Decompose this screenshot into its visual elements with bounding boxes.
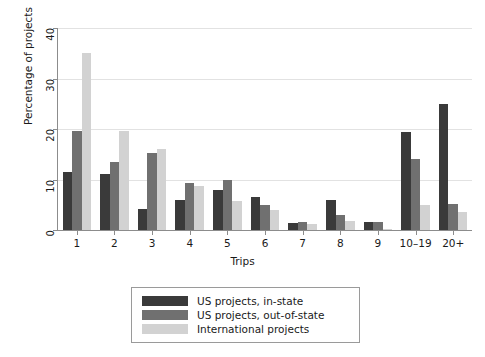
x-tick-mark	[114, 231, 115, 235]
bar	[72, 131, 82, 230]
bar	[194, 186, 204, 230]
bar	[448, 204, 458, 230]
x-tick-label: 6	[246, 238, 284, 249]
y-tick-label: 0	[46, 230, 56, 236]
x-tick-mark	[77, 231, 78, 235]
x-tick-mark	[227, 231, 228, 235]
legend-label: US projects, out-of-state	[197, 310, 324, 321]
bar-group	[96, 28, 134, 230]
bar	[307, 224, 317, 230]
bar	[63, 172, 73, 230]
bar	[119, 131, 129, 230]
x-tick: 5	[209, 231, 247, 253]
bar	[213, 190, 223, 230]
x-tick-label: 3	[133, 238, 171, 249]
x-tick-mark	[453, 231, 454, 235]
x-tick: 1	[58, 231, 96, 253]
bar	[223, 180, 233, 231]
bar	[439, 104, 449, 230]
x-tick-label: 8	[321, 238, 359, 249]
y-tick-label: 10	[46, 180, 56, 193]
plot-area: 010203040	[57, 28, 472, 230]
legend-item: US projects, in-state	[142, 294, 349, 308]
bar-group	[434, 28, 472, 230]
bar	[288, 223, 298, 230]
y-tick-label: 40	[46, 28, 56, 41]
x-tick: 7	[284, 231, 322, 253]
legend-swatch	[142, 296, 188, 306]
bar	[383, 229, 393, 230]
bar	[251, 197, 261, 230]
x-tick: 20+	[434, 231, 472, 253]
bar-group	[246, 28, 284, 230]
bar	[458, 212, 468, 230]
bar	[110, 162, 120, 230]
legend-swatch	[142, 324, 188, 334]
legend-item: US projects, out-of-state	[142, 308, 349, 322]
bar	[411, 159, 421, 230]
bar-group	[133, 28, 171, 230]
x-axis-ticks: 12345678910–1920+	[58, 231, 472, 253]
bar-group	[284, 28, 322, 230]
x-tick: 4	[171, 231, 209, 253]
bar-group	[58, 28, 96, 230]
legend-label: International projects	[197, 324, 309, 335]
x-tick: 10–19	[397, 231, 435, 253]
x-tick: 3	[133, 231, 171, 253]
bar-chart-figure: Percentage of projects 010203040 1234567…	[0, 0, 485, 357]
bar	[364, 222, 374, 230]
legend-label: US projects, in-state	[197, 296, 303, 307]
x-tick-mark	[265, 231, 266, 235]
x-tick: 9	[359, 231, 397, 253]
x-tick-mark	[416, 231, 417, 235]
bar-group	[321, 28, 359, 230]
bar	[100, 174, 110, 230]
x-tick: 6	[246, 231, 284, 253]
y-axis-title: Percentage of projects	[22, 0, 34, 156]
legend-item: International projects	[142, 322, 349, 336]
legend-swatch	[142, 310, 188, 320]
x-tick-label: 1	[58, 238, 96, 249]
x-tick-label: 7	[284, 238, 322, 249]
x-tick: 8	[321, 231, 359, 253]
bar	[147, 153, 157, 230]
bar-groups	[58, 28, 472, 230]
bar	[260, 205, 270, 230]
x-tick-mark	[340, 231, 341, 235]
bar-group	[209, 28, 247, 230]
bar-group	[171, 28, 209, 230]
chart-legend: US projects, in-stateUS projects, out-of…	[131, 287, 360, 343]
x-tick-mark	[303, 231, 304, 235]
bar	[232, 201, 242, 230]
x-tick-label: 9	[359, 238, 397, 249]
bar	[298, 222, 308, 230]
x-tick-label: 2	[96, 238, 134, 249]
y-tick-label: 30	[46, 79, 56, 92]
bar	[270, 210, 280, 230]
x-axis-title: Trips	[0, 255, 485, 267]
x-tick-label: 4	[171, 238, 209, 249]
x-tick-label: 10–19	[397, 238, 435, 249]
x-tick-mark	[190, 231, 191, 235]
bar-group	[359, 28, 397, 230]
bar	[138, 209, 148, 230]
bar	[336, 215, 346, 230]
bar	[345, 221, 355, 230]
bar	[185, 183, 195, 230]
bar	[373, 222, 383, 230]
x-tick-mark	[152, 231, 153, 235]
bar	[420, 205, 430, 230]
bar	[401, 132, 411, 230]
bar	[326, 200, 336, 230]
y-tick-label: 20	[46, 129, 56, 142]
x-tick: 2	[96, 231, 134, 253]
bar	[82, 53, 92, 230]
bar	[175, 200, 185, 230]
bar-group	[397, 28, 435, 230]
bar	[157, 149, 167, 230]
x-tick-mark	[378, 231, 379, 235]
x-tick-label: 5	[209, 238, 247, 249]
x-tick-label: 20+	[434, 238, 472, 249]
